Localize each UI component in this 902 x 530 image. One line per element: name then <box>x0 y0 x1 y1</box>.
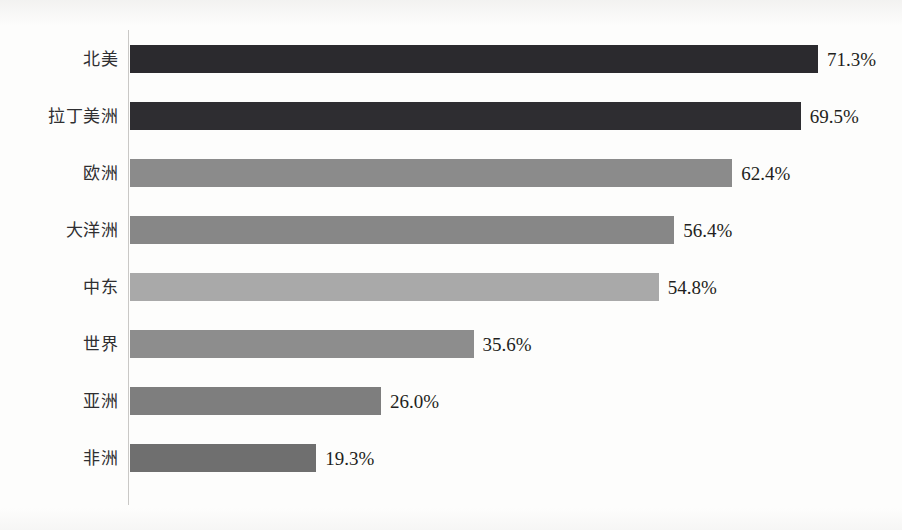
bar-value-label: 69.5% <box>810 101 859 131</box>
bar <box>130 330 474 358</box>
category-label: 拉丁美洲 <box>48 101 118 131</box>
bar-value-label: 62.4% <box>741 158 790 188</box>
bar-row: 欧洲62.4% <box>0 158 902 188</box>
bar-row: 大洋洲56.4% <box>0 215 902 245</box>
bar-row: 拉丁美洲69.5% <box>0 101 902 131</box>
bar-value-label: 71.3% <box>827 44 876 74</box>
bar-value-label: 26.0% <box>390 386 439 416</box>
bar <box>130 387 381 415</box>
bar <box>130 159 732 187</box>
category-label: 大洋洲 <box>66 215 119 245</box>
bar-row: 中东54.8% <box>0 272 902 302</box>
bar <box>130 216 674 244</box>
bar <box>130 45 818 73</box>
category-label: 世界 <box>83 329 118 359</box>
bar-value-label: 19.3% <box>325 443 374 473</box>
category-label: 非洲 <box>83 443 118 473</box>
bar <box>130 273 659 301</box>
horizontal-bar-chart: 北美71.3%拉丁美洲69.5%欧洲62.4%大洋洲56.4%中东54.8%世界… <box>0 0 902 530</box>
bar-row: 世界35.6% <box>0 329 902 359</box>
category-label: 北美 <box>83 44 118 74</box>
bar-row: 亚洲26.0% <box>0 386 902 416</box>
category-label: 欧洲 <box>83 158 118 188</box>
bar-row: 非洲19.3% <box>0 443 902 473</box>
bar <box>130 102 801 130</box>
bar-row: 北美71.3% <box>0 44 902 74</box>
bar <box>130 444 316 472</box>
bar-value-label: 54.8% <box>668 272 717 302</box>
bar-value-label: 35.6% <box>483 329 532 359</box>
category-label: 亚洲 <box>83 386 118 416</box>
category-label: 中东 <box>83 272 118 302</box>
bar-value-label: 56.4% <box>683 215 732 245</box>
